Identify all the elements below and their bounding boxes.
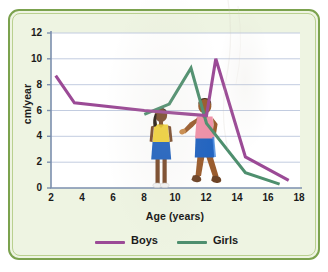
y-tick-label: 10 (22, 53, 42, 64)
x-tick-label: 12 (196, 192, 216, 203)
legend-label-boys: Boys (131, 234, 158, 246)
x-tick-label: 2 (41, 192, 61, 203)
chart-legend: Boys Girls (95, 234, 245, 254)
x-tick-label: 4 (72, 192, 92, 203)
legend-swatch-girls (177, 241, 207, 244)
y-tick-label: 0 (22, 182, 42, 193)
chart-figure: 12 10 8 6 4 2 0 2 4 6 8 10 12 14 16 18 c… (0, 0, 328, 272)
legend-swatch-boys (95, 241, 125, 244)
y-tick-label: 2 (22, 156, 42, 167)
x-tick-label: 14 (227, 192, 247, 203)
y-tick-label: 12 (22, 27, 42, 38)
legend-label-girls: Girls (213, 234, 238, 246)
chart-plot-svg (0, 0, 328, 272)
x-tick-label: 8 (134, 192, 154, 203)
x-axis-title: Age (years) (120, 210, 230, 222)
x-tick-label: 16 (258, 192, 278, 203)
y-axis-title: cm/year (21, 69, 33, 139)
x-tick-label: 18 (289, 192, 309, 203)
x-tick-label: 6 (103, 192, 123, 203)
x-tick-label: 10 (165, 192, 185, 203)
